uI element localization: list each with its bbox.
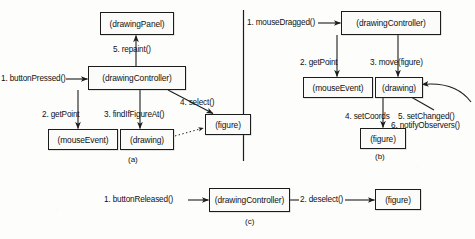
object-label: (figure) [385,195,411,205]
object-label: (drawingController) [356,18,425,28]
message-b-move-figure: 3. move(figure) [370,58,423,67]
message-a-get-point: 2. getPoint [42,110,80,119]
object-figure-a[interactable]: (figure) [205,114,251,135]
message-a-find-if-figure-at: 3. findIfFigureAt() [104,110,164,119]
message-a-button-pressed: 1. buttonPressed() [1,74,66,83]
object-label: (figure) [370,134,396,144]
object-drawing-a[interactable]: (drawing) [120,129,174,150]
object-label: (mouseEvent) [58,135,109,145]
object-label: (drawing) [382,83,416,93]
object-label: (drawingPanel) [110,19,165,29]
panel-caption-c: (c) [245,217,254,226]
object-drawing-controller-a[interactable]: (drawingController) [88,66,186,90]
object-drawing-b[interactable]: (drawing) [375,77,423,98]
object-figure-b[interactable]: (figure) [360,128,406,149]
object-label: (drawing) [130,135,164,145]
object-label: (figure) [215,120,241,130]
message-b-set-coords: 4. setCoords [345,112,390,121]
object-mouse-event-b[interactable]: (mouseEvent) [303,77,373,98]
panel-caption-b: (b) [375,152,385,161]
message-b-get-point: 2. getPoint [300,58,338,67]
object-label: (drawingController) [215,195,284,205]
uml-collaboration-diagram-page: figure --> (drawingPanel) (drawingContro… [0,0,475,239]
object-label: (mouseEvent) [313,83,364,93]
message-c-deselect: 2. deselect() [300,195,343,204]
object-mouse-event-a[interactable]: (mouseEvent) [48,129,118,150]
message-a-repaint: 5. repaint() [113,45,151,54]
object-drawing-controller-b[interactable]: (drawingController) [341,11,441,35]
message-b-set-changed: 5. setChanged() [398,112,454,121]
object-label: (drawingController) [102,73,171,83]
message-a-select: 4. select() [180,98,214,107]
message-c-button-released: 1. buttonReleased() [104,195,173,204]
object-drawing-controller-c[interactable]: (drawingController) [209,188,290,212]
object-drawing-panel-a[interactable]: (drawingPanel) [100,12,174,35]
object-figure-c[interactable]: (figure) [375,189,421,210]
message-b-mouse-dragged: 1. mouseDragged() [247,18,315,27]
message-b-notify-observers: 6. notifyObservers() [391,121,460,130]
connector-b-notify-observers [422,84,471,102]
panel-caption-a: (a) [128,155,138,164]
